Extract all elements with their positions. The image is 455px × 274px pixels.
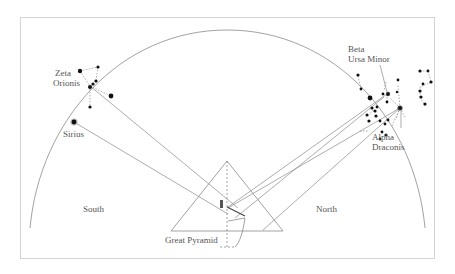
label-orionis: Orionis — [53, 78, 80, 88]
pyramid-star-alignment-diagram: Zeta Orionis Sirius Beta Ursa Minor Alph… — [0, 0, 455, 274]
orion-constellation — [78, 65, 114, 108]
label-beta: Beta — [348, 44, 365, 54]
north-sight-lines — [228, 94, 400, 230]
label-ursa-minor: Ursa Minor — [348, 54, 390, 64]
beta-leader — [380, 65, 387, 92]
northern-constellations — [356, 69, 432, 140]
label-alpha: Alpha — [372, 132, 394, 142]
label-south: South — [83, 204, 105, 214]
kings-chamber-icon — [220, 200, 223, 208]
label-sirius: Sirius — [63, 129, 85, 139]
label-zeta: Zeta — [55, 68, 71, 78]
label-north: North — [316, 204, 337, 214]
south-sight-lines — [74, 86, 238, 214]
zeta-orionis-star — [88, 85, 92, 89]
sirius-star — [72, 120, 77, 125]
label-great-pyramid: Great Pyramid — [165, 235, 218, 245]
label-draconis: Draconis — [372, 142, 405, 152]
